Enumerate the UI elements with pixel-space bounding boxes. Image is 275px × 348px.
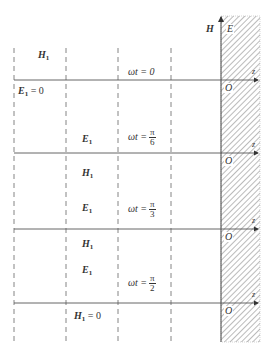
e-axis-label: E (226, 24, 234, 34)
h1-label-panel4: H1 = 0 (74, 311, 101, 323)
e1-label-panel2: E1 (82, 134, 92, 146)
z-label-panel4: z (252, 291, 255, 299)
h-axis-label: H (206, 24, 214, 34)
z-label-panel3: z (252, 217, 255, 225)
h1-label-panel3: H1 (82, 239, 93, 251)
omega-t-label-panel2: ωt =π6 (128, 128, 156, 147)
h1-label-panel2: H1 (82, 168, 93, 180)
omega-t-label-panel3: ωt =π3 (128, 200, 156, 219)
origin-label-panel3: O (224, 232, 233, 242)
omega-t-label-panel1: ωt = 0 (128, 67, 155, 77)
e1-label-panel1: E1 = 0 (18, 86, 44, 98)
origin-label-panel1: O (224, 83, 233, 93)
h1-label-panel1: H1 (38, 50, 49, 62)
origin-label-panel4: O (224, 306, 233, 316)
e1-label-panel4: E1 (82, 265, 92, 277)
z-label-panel2: z (252, 141, 255, 149)
z-label-panel1: z (252, 68, 255, 76)
omega-t-label-panel4: ωt =π2 (128, 274, 156, 293)
e1-label-panel3: E1 (82, 203, 92, 215)
origin-label-panel2: O (224, 156, 233, 166)
